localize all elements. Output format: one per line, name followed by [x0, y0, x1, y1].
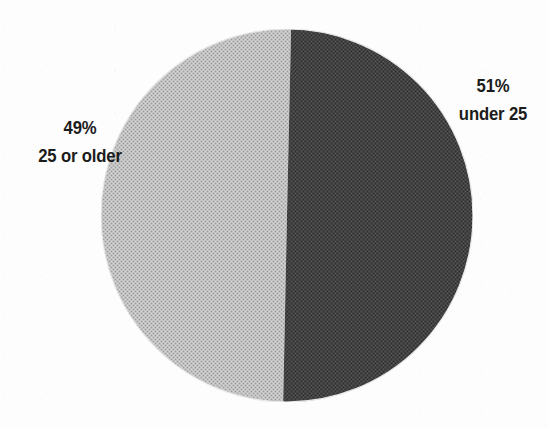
pie-label-under-25: 51% under 25: [423, 72, 548, 128]
pie-label-under-25-category: under 25: [423, 100, 548, 128]
pie-label-25-or-older-percent: 49%: [10, 114, 151, 142]
pie-label-25-or-older: 49% 25 or older: [10, 114, 151, 170]
pie-label-under-25-percent: 51%: [423, 72, 548, 100]
pie-label-25-or-older-category: 25 or older: [10, 142, 151, 170]
pie-slice-25-or-older: [101, 29, 291, 402]
pie-chart-figure: 51% under 25 49% 25 or older: [0, 0, 548, 429]
pie-svg: [101, 29, 473, 402]
pie-chart-graphic: [101, 29, 473, 402]
